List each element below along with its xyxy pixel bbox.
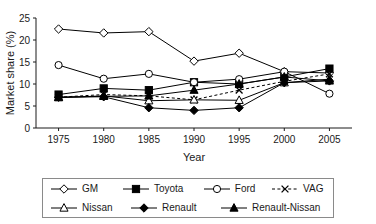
data-point-marker	[326, 90, 333, 97]
filled-square-icon	[121, 183, 151, 195]
legend-item-ford[interactable]: Ford	[202, 183, 270, 195]
y-tick-label: 25	[19, 13, 31, 24]
data-point-marker	[190, 57, 198, 65]
data-point-marker	[145, 27, 153, 35]
legend-item-label: GM	[82, 183, 98, 195]
legend-row: NissanRenaultRenault-Nissan	[43, 198, 333, 217]
cross-x-icon	[270, 183, 300, 195]
data-point-marker	[235, 49, 243, 57]
legend-row: GMToyotaFordVAG	[43, 179, 333, 198]
legend-item-vag[interactable]: VAG	[270, 183, 333, 195]
legend-item-label: Nissan	[82, 202, 113, 214]
legend-item-nissan[interactable]: Nissan	[49, 202, 129, 214]
data-point-marker	[55, 61, 62, 68]
y-tick-label: 10	[19, 79, 31, 90]
data-point-marker	[190, 106, 198, 114]
legend-item-gm[interactable]: GM	[49, 183, 121, 195]
legend-item-label: Renault-Nissan	[252, 202, 320, 214]
y-tick-label: 5	[24, 101, 30, 112]
y-axis-title: Market share (%)	[4, 31, 16, 115]
filled-diamond-icon	[129, 202, 159, 214]
market-share-line-chart-figure: 05101520251975198019851990199520002005 Y…	[0, 0, 376, 224]
x-tick-label: 1980	[93, 134, 116, 145]
data-point-marker	[235, 104, 243, 112]
legend-item-renault-nissan[interactable]: Renault-Nissan	[219, 202, 295, 214]
chart-legend: GMToyotaFordVAGNissanRenaultRenault-Niss…	[42, 178, 334, 218]
filled-triangle-icon	[219, 202, 249, 214]
data-point-marker	[145, 104, 153, 112]
data-point-marker	[54, 25, 62, 33]
series-gm	[54, 25, 333, 77]
y-tick-label: 15	[19, 57, 31, 68]
x-tick-label: 1990	[183, 134, 206, 145]
legend-item-label: Toyota	[154, 183, 183, 195]
legend-item-label: Renault	[162, 202, 196, 214]
y-tick-label: 0	[24, 123, 30, 134]
legend-item-toyota[interactable]: Toyota	[121, 183, 202, 195]
legend-item-renault[interactable]: Renault	[129, 202, 219, 214]
data-point-marker	[100, 29, 108, 37]
data-point-marker	[100, 75, 107, 82]
x-tick-label: 1975	[47, 134, 70, 145]
legend-item-label: VAG	[303, 183, 323, 195]
data-point-marker	[145, 70, 152, 77]
open-triangle-icon	[49, 202, 79, 214]
x-tick-label: 1985	[138, 134, 161, 145]
data-series-group	[54, 25, 333, 115]
open-diamond-icon	[49, 183, 79, 195]
y-tick-label: 20	[19, 35, 31, 46]
series-line	[59, 29, 330, 73]
legend-item-label: Ford	[235, 183, 256, 195]
x-tick-label: 1995	[228, 134, 251, 145]
x-tick-label: 2000	[273, 134, 296, 145]
chart-plot-area: 05101520251975198019851990199520002005 Y…	[0, 0, 376, 175]
x-tick-label: 2005	[318, 134, 341, 145]
x-axis-title: Year	[183, 151, 206, 163]
open-circle-icon	[202, 183, 232, 195]
